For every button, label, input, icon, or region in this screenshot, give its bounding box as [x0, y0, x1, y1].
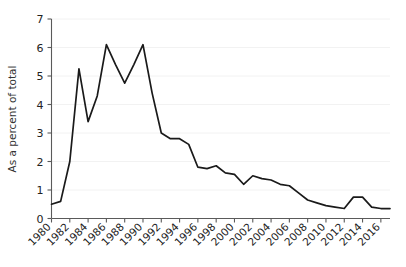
y-tick-label: 1 — [37, 184, 44, 197]
chart-canvas: 01234567 1980198219841986198819901992199… — [0, 0, 406, 267]
y-tick-label: 4 — [37, 99, 44, 112]
y-tick-label: 6 — [37, 42, 44, 55]
x-tick-labels: 1980198219841986198819901992199419961998… — [26, 220, 383, 248]
y-tick-label: 2 — [37, 156, 44, 169]
x-tick-marks — [52, 219, 381, 223]
y-tick-label: 5 — [37, 70, 44, 83]
y-tick-marks — [48, 19, 52, 219]
y-axis-label: As a percent of total — [6, 66, 18, 173]
data-series-line — [52, 45, 391, 209]
y-tick-label: 7 — [37, 13, 44, 26]
y-tick-labels: 01234567 — [37, 13, 44, 226]
line-chart: 01234567 1980198219841986198819901992199… — [0, 0, 406, 267]
gridlines — [52, 19, 391, 190]
y-tick-label: 3 — [37, 127, 44, 140]
